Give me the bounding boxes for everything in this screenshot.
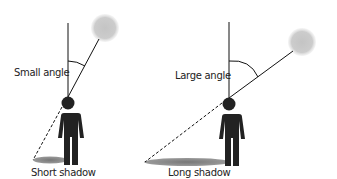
right-scene bbox=[144, 22, 316, 166]
long-shadow-label: Long shadow bbox=[168, 167, 230, 178]
angle-arc bbox=[68, 61, 85, 66]
person-icon bbox=[219, 98, 245, 167]
shadow bbox=[33, 157, 67, 164]
shadow-angle-diagram bbox=[0, 0, 337, 179]
shadow-dashed-line bbox=[33, 107, 62, 160]
left-scene bbox=[33, 14, 119, 165]
shadow bbox=[144, 158, 230, 166]
small-angle-label: Small angle bbox=[14, 67, 69, 78]
sun-ray-line bbox=[68, 39, 99, 97]
large-angle-label: Large angle bbox=[175, 70, 231, 81]
person-icon bbox=[58, 97, 84, 166]
shadow-dashed-line bbox=[145, 103, 222, 162]
angle-arc bbox=[229, 61, 258, 77]
sun-ray-line bbox=[229, 51, 293, 98]
sun-icon bbox=[91, 14, 119, 42]
short-shadow-label: Short shadow bbox=[31, 167, 96, 178]
